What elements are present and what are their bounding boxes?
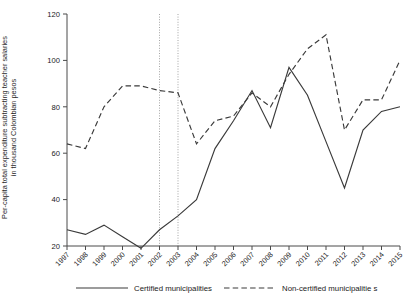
y-tick-label: 40 xyxy=(52,195,60,204)
x-tick-label: 2000 xyxy=(109,250,127,268)
x-tick-label: 2001 xyxy=(127,250,145,268)
x-tick-label: 1999 xyxy=(90,250,108,268)
x-tick-label: 2004 xyxy=(183,250,201,268)
x-tick-label: 2003 xyxy=(164,250,182,268)
x-tick-label: 2006 xyxy=(220,250,238,268)
y-tick-label: 120 xyxy=(47,10,60,19)
y-tick-label: 80 xyxy=(52,103,60,112)
chart-plot-area: 20406080100120 1997199819992000200120022… xyxy=(0,0,407,304)
series-line-non-certified xyxy=(67,35,400,149)
legend-label-certified: Certified municipalities xyxy=(134,284,212,293)
x-tick-label: 2010 xyxy=(294,250,312,268)
x-tick-label: 2008 xyxy=(257,250,275,268)
x-tick-label: 2011 xyxy=(313,250,331,268)
y-tick-label: 20 xyxy=(52,242,60,251)
x-tick-label: 1998 xyxy=(72,250,90,268)
x-tick-label: 2007 xyxy=(238,250,256,268)
x-tick-label: 2015 xyxy=(386,250,404,268)
x-tick-label: 2002 xyxy=(146,250,164,268)
x-tick-label: 1997 xyxy=(53,250,71,268)
y-tick-label: 100 xyxy=(47,56,60,65)
x-tick-label: 2014 xyxy=(368,250,386,268)
x-tick-label: 2012 xyxy=(331,250,349,268)
y-tick-label: 60 xyxy=(52,149,60,158)
x-tick-label: 2013 xyxy=(349,250,367,268)
legend: Certified municipalities Non-certified m… xyxy=(76,284,377,293)
y-axis-ticks: 20406080100120 xyxy=(47,10,67,251)
chart-container: Per-capita total expenditure subtracting… xyxy=(0,0,407,304)
x-tick-label: 2009 xyxy=(275,250,293,268)
series-line-certified xyxy=(67,67,400,248)
x-tick-label: 2005 xyxy=(201,250,219,268)
legend-label-non-certified: Non-certified municipalitie s xyxy=(282,284,377,293)
x-axis-ticks: 1997199819992000200120022003200420052006… xyxy=(53,246,404,268)
reference-lines xyxy=(160,14,179,246)
